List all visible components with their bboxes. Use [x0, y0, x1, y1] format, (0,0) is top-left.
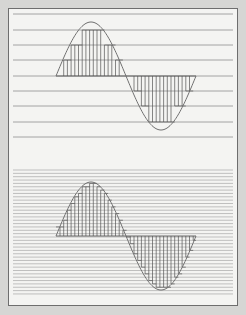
quantization-diagram [0, 0, 246, 315]
high-resolution-panel [13, 170, 233, 294]
low-resolution-panel [13, 14, 233, 137]
quantization-levels [13, 14, 233, 137]
